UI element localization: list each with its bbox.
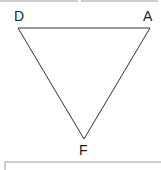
triangle-shape xyxy=(18,28,150,139)
bottom-box-border xyxy=(5,162,161,170)
vertex-label-d: D xyxy=(14,8,24,24)
vertex-label-a: A xyxy=(143,8,153,24)
vertex-label-f: F xyxy=(79,142,88,158)
triangle-diagram: D A F xyxy=(0,0,161,170)
